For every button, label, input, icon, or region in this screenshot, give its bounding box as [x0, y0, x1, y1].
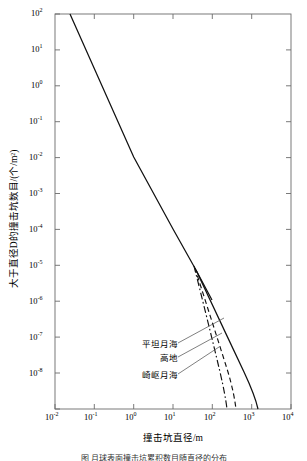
x-tick-label: 103 — [243, 412, 255, 422]
annotation-flat-mare: 平坦月海 — [108, 337, 178, 349]
x-axis-title: 撞击坑直径/m — [55, 430, 291, 444]
y-tick-label: 10-3 — [29, 188, 43, 198]
y-tick-label: 101 — [31, 44, 43, 54]
x-tick-label: 100 — [125, 412, 137, 422]
x-tick-label: 10-2 — [45, 412, 59, 422]
plot-frame — [55, 14, 291, 409]
y-axis-title: 大于直径D的撞击坑数目/(个/m²) — [6, 144, 20, 294]
y-tick-label: 10-1 — [29, 116, 43, 126]
crater-size-frequency-chart — [0, 0, 307, 461]
y-tick-label: 10-2 — [29, 152, 43, 162]
x-tick-label: 101 — [164, 412, 176, 422]
figure-caption: 图 月球表面撞击坑累积数目随直径的分布 — [0, 452, 307, 461]
y-tick-label: 10-5 — [29, 260, 43, 270]
y-tick-label: 10-6 — [29, 296, 43, 306]
annotation-rugged-mare: 崎岖月海 — [108, 368, 178, 380]
annotation-highlands: 高地 — [108, 351, 178, 363]
x-tick-label: 104 — [282, 412, 294, 422]
y-tick-label: 102 — [31, 8, 43, 18]
x-tick-label: 102 — [204, 412, 216, 422]
y-tick-label: 10-8 — [29, 368, 43, 378]
y-tick-label: 10-4 — [29, 224, 43, 234]
y-tick-label: 10-7 — [29, 332, 43, 342]
y-tick-label: 100 — [31, 80, 43, 90]
x-tick-label: 10-1 — [84, 412, 98, 422]
